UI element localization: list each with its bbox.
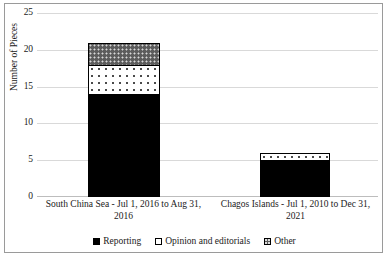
x-axis-category-labels: South China Sea - Jul 1, 2016 to Aug 31,… [37, 199, 378, 227]
x-label-chagos-islands: Chagos Islands - Jul 1, 2010 to Dec 31, … [182, 199, 389, 222]
y-axis-title: Number of Pieces [9, 0, 19, 127]
legend-label-opinion-and-editorials: Opinion and editorials [165, 236, 250, 246]
bar-segment-reporting[interactable] [88, 94, 160, 197]
stacked-bar-chart-figure: 25 20 15 10 5 0 Number of Pieces [0, 0, 389, 260]
legend-label-other: Other [274, 236, 296, 246]
bar-segment-opinion-and-editorials[interactable] [260, 153, 330, 160]
y-tick-5: 5 [5, 155, 33, 165]
legend-item-other[interactable]: Other [264, 236, 296, 246]
bars-container [37, 13, 378, 197]
bar-stack [260, 153, 330, 197]
legend-label-reporting: Reporting [103, 236, 141, 246]
bar-segment-reporting[interactable] [260, 160, 330, 197]
legend-swatch-white-square-icon [155, 238, 162, 245]
bar-segment-other[interactable] [88, 43, 160, 65]
legend-swatch-patterned-square-icon [264, 238, 271, 245]
bar-segment-opinion-and-editorials[interactable] [88, 65, 160, 94]
plot-area [37, 13, 378, 197]
legend-swatch-black-square-icon [93, 238, 100, 245]
legend-item-opinion-and-editorials[interactable]: Opinion and editorials [155, 236, 250, 246]
chart-legend: Reporting Opinion and editorials Other [0, 236, 389, 246]
legend-item-reporting[interactable]: Reporting [93, 236, 141, 246]
x-label-line2: 2021 [182, 211, 389, 223]
x-label-line1: Chagos Islands - Jul 1, 2010 to Dec 31, [182, 199, 389, 211]
bar-stack [88, 43, 160, 197]
